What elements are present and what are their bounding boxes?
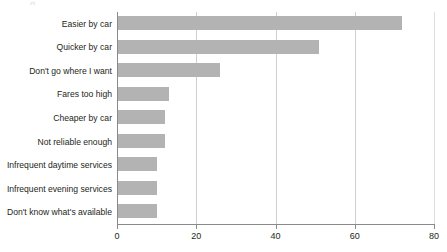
y-axis-line bbox=[117, 12, 118, 225]
bar bbox=[117, 181, 157, 195]
category-label: Don't know what's available bbox=[0, 200, 112, 224]
bar bbox=[117, 40, 319, 54]
clipped-title-artifact: g bbox=[30, 0, 72, 5]
x-axis-tick-40 bbox=[276, 225, 277, 229]
bar bbox=[117, 134, 165, 148]
category-label: Not reliable enough bbox=[0, 130, 112, 154]
bar-rows bbox=[117, 12, 434, 224]
bar bbox=[117, 87, 169, 101]
category-label: Fares too high bbox=[0, 83, 112, 107]
bar bbox=[117, 63, 220, 77]
bar-row bbox=[117, 130, 434, 154]
gridline-80 bbox=[434, 12, 435, 224]
x-axis-tick-0 bbox=[117, 225, 118, 229]
bar bbox=[117, 204, 157, 218]
x-axis-tick-label: 60 bbox=[350, 231, 360, 242]
bar-row bbox=[117, 83, 434, 107]
plot-area bbox=[117, 12, 434, 224]
x-axis-tick-60 bbox=[355, 225, 356, 229]
category-label: Cheaper by car bbox=[0, 106, 112, 130]
bar bbox=[117, 110, 165, 124]
bar-row bbox=[117, 106, 434, 130]
bar bbox=[117, 16, 402, 30]
x-axis-tick-80 bbox=[434, 225, 435, 229]
bar-row bbox=[117, 12, 434, 36]
x-axis-tick-labels: 020406080 bbox=[0, 231, 447, 245]
bar-chart: g Easier by carQuicker by carDon't go wh… bbox=[0, 0, 447, 252]
bar-row bbox=[117, 59, 434, 83]
bar-row bbox=[117, 153, 434, 177]
x-axis-tick-label: 80 bbox=[429, 231, 439, 242]
category-axis-labels: Easier by carQuicker by carDon't go wher… bbox=[0, 12, 112, 224]
x-axis-tick-20 bbox=[196, 225, 197, 229]
category-label: Quicker by car bbox=[0, 36, 112, 60]
x-axis-tick-label: 0 bbox=[114, 231, 119, 242]
x-axis-tick-label: 40 bbox=[270, 231, 280, 242]
bar-row bbox=[117, 177, 434, 201]
x-axis-tick-label: 20 bbox=[191, 231, 201, 242]
bar bbox=[117, 157, 157, 171]
category-label: Infrequent daytime services bbox=[0, 153, 112, 177]
category-label: Don't go where I want bbox=[0, 59, 112, 83]
bar-row bbox=[117, 36, 434, 60]
bar-row bbox=[117, 200, 434, 224]
category-label: Infrequent evening services bbox=[0, 177, 112, 201]
category-label: Easier by car bbox=[0, 12, 112, 36]
